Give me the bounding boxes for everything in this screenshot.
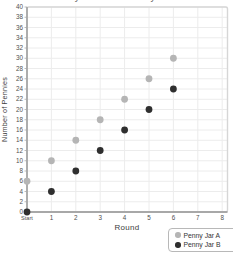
- data-point-jar-b: [146, 106, 153, 113]
- y-tick-label: 6: [19, 177, 23, 184]
- y-tick-label: 16: [16, 126, 24, 133]
- data-point-jar-a: [97, 116, 104, 123]
- x-tick-label: 6: [172, 214, 176, 221]
- legend-label-jar-a: Penny Jar A: [184, 232, 221, 239]
- data-point-jar-a: [170, 55, 177, 62]
- x-tick-label: 7: [196, 214, 200, 221]
- y-tick-label: 36: [16, 24, 24, 31]
- legend-marker-jar-b-icon: [175, 242, 181, 248]
- y-tick-label: 34: [16, 34, 24, 41]
- data-point-jar-b: [72, 168, 79, 175]
- x-tick-label: Start: [21, 215, 33, 221]
- y-tick-label: 22: [16, 95, 24, 102]
- x-tick-label: 1: [50, 214, 54, 221]
- y-tick-label: 4: [19, 188, 23, 195]
- data-point-jar-b: [48, 188, 55, 195]
- legend-item-jar-b: Penny Jar B: [175, 241, 233, 248]
- y-tick-label: 30: [16, 54, 24, 61]
- x-tick-label: 2: [74, 214, 78, 221]
- x-tick-label: 4: [123, 214, 127, 221]
- y-tick-label: 10: [16, 157, 24, 164]
- x-tick-label: 3: [98, 214, 102, 221]
- data-point-jar-b: [97, 147, 104, 154]
- scatter-plot: 0246810121416182022242628303234363840Sta…: [0, 0, 233, 253]
- data-point-jar-a: [121, 96, 128, 103]
- y-tick-label: 32: [16, 44, 24, 51]
- data-point-jar-a: [48, 157, 55, 164]
- y-tick-label: 20: [16, 106, 24, 113]
- y-tick-label: 2: [19, 198, 23, 205]
- data-point-jar-a: [24, 178, 31, 185]
- data-point-jar-b: [170, 86, 177, 93]
- y-tick-label: 24: [16, 85, 24, 92]
- legend-label-jar-b: Penny Jar B: [184, 241, 221, 248]
- y-tick-label: 26: [16, 75, 24, 82]
- legend-item-jar-a: Penny Jar A: [175, 232, 233, 239]
- data-point-jar-a: [146, 75, 153, 82]
- x-tick-label: 5: [147, 214, 151, 221]
- y-tick-label: 18: [16, 116, 24, 123]
- x-tick-label: 8: [220, 214, 224, 221]
- y-tick-label: 40: [16, 3, 24, 10]
- data-point-jar-a: [72, 137, 79, 144]
- y-tick-label: 38: [16, 13, 24, 20]
- y-tick-label: 28: [16, 65, 24, 72]
- legend: Penny Jar A Penny Jar B: [168, 228, 233, 252]
- y-tick-label: 12: [16, 147, 24, 154]
- legend-marker-jar-a-icon: [175, 232, 181, 238]
- y-tick-label: 14: [16, 136, 24, 143]
- data-point-jar-b: [121, 127, 128, 134]
- chart-container: Penny Jar A and Penny Jar B 024681012141…: [0, 0, 233, 253]
- y-tick-label: 8: [19, 167, 23, 174]
